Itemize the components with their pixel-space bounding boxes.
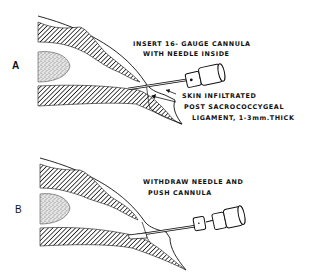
- instruction-a-line-1: INSERT 16- GAUGE CANNULA: [133, 40, 251, 49]
- sacral-canal-stipple: [40, 194, 70, 224]
- sacral-canal-stipple: [38, 52, 70, 82]
- needle-hub: [211, 205, 246, 231]
- panel-letter-a: A: [12, 60, 20, 71]
- arrow-skin-icon: [166, 89, 176, 94]
- panel-b-illustration: [0, 140, 314, 279]
- instruction-b-line-1: WITHDRAW NEEDLE AND: [143, 178, 243, 187]
- coccyx-lower-bone: [40, 227, 186, 270]
- panel-letter-b: B: [15, 204, 22, 215]
- cannula-hub: [184, 63, 226, 89]
- panel-b: B WITHDRAW NEEDLE AND PUSH CANNULA: [0, 140, 314, 279]
- coccyx-lower-bone: [38, 85, 182, 124]
- cannula-hub: [193, 216, 206, 231]
- annotation-skin-infiltrated: SKIN INFILTRATED: [182, 92, 256, 101]
- annotation-ligament-thickness: LIGAMENT, 1-3mm.THICK: [192, 114, 294, 123]
- panel-a: A INSERT 16- GAUGE CANNULA WITH NEEDLE I…: [0, 0, 314, 140]
- instruction-a-line-2: WITH NEEDLE INSIDE: [143, 50, 230, 59]
- annotation-post-sacrococcygeal: POST SACROCOCCYGEAL: [184, 103, 284, 112]
- instruction-b-line-2: PUSH CANNULA: [148, 189, 212, 198]
